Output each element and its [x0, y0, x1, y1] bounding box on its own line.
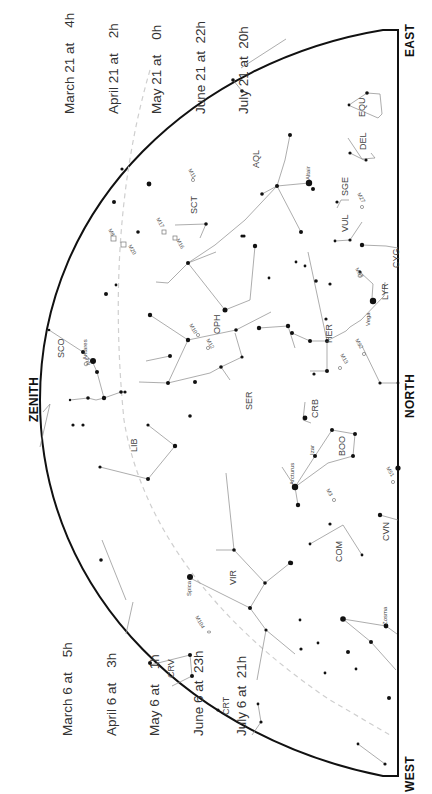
time-row: June 21 at 22h	[194, 13, 209, 114]
label-zosma: Zosma	[382, 606, 388, 625]
label-m57: M57	[354, 267, 365, 279]
label-m10: M10	[188, 323, 199, 335]
label-izar: Izar	[309, 445, 315, 455]
label-antares: Antares	[82, 339, 88, 360]
west-label: WEST	[403, 756, 417, 792]
label-del: DEL	[358, 132, 368, 150]
ecliptic-line	[118, 70, 390, 735]
label-lib: LIB	[129, 438, 139, 452]
label-m16: M16	[175, 238, 186, 250]
label-arcturus: Arcturus	[289, 463, 295, 485]
label-crb: CRB	[310, 399, 320, 418]
label-equ: EQU	[357, 97, 367, 117]
label-m27: M27	[356, 192, 367, 204]
label-m3: M3	[325, 488, 334, 498]
time-row: March 6 at 5h	[61, 642, 76, 736]
time-row: July 6 at 21h	[235, 642, 250, 736]
time-row: May 21 at 0h	[150, 13, 165, 114]
label-sge: SGE	[340, 177, 350, 196]
label-cvn: CVN	[381, 522, 391, 541]
label-boo: BOO	[337, 436, 347, 456]
label-vul: VUL	[340, 214, 350, 232]
label-m4: M4	[85, 357, 91, 365]
label-spica: Spica	[186, 580, 192, 596]
label-sco: SCO	[56, 338, 66, 358]
constellation-labels: SCO LIB SCT OPH SER AQL SGE VUL DEL EQU …	[56, 97, 401, 715]
label-her: HER	[324, 323, 334, 343]
label-cyg: CYG	[391, 248, 401, 268]
time-row: April 21 at 2h	[107, 13, 122, 114]
time-block-lower: March 6 at 5h April 6 at 3h May 6 at 1h …	[32, 642, 264, 736]
label-m17: M17	[155, 217, 166, 229]
zenith-label: ZENITH	[27, 377, 41, 422]
time-row: May 6 at 1h	[148, 642, 163, 736]
label-lyr: LYR	[380, 283, 390, 300]
label-m104: M104	[194, 615, 206, 630]
label-oph: OPH	[212, 314, 222, 334]
label-sct: SCT	[189, 195, 199, 214]
label-m20: M20	[127, 244, 138, 256]
north-label: NORTH	[403, 374, 417, 418]
label-ser: SER	[244, 391, 254, 410]
label-m11: M11	[187, 168, 197, 180]
label-altair: Altair	[305, 166, 311, 180]
east-label: EAST	[403, 24, 417, 57]
label-aql: AQL	[251, 150, 261, 168]
time-block-upper: March 21 at 4h April 21 at 2h May 21 at …	[34, 13, 266, 114]
label-vega: Vega	[365, 312, 371, 326]
time-row: June 6 at 23h	[192, 642, 207, 736]
time-row: March 21 at 4h	[63, 13, 78, 114]
label-com: COM	[334, 541, 344, 562]
deep-sky-labels: M4 M8 M20 M17 M16 M11 M10 M12 M13 M92 M5…	[85, 168, 396, 630]
label-m13: M13	[339, 353, 350, 365]
label-m51: M51	[385, 466, 396, 478]
label-vir: VIR	[228, 569, 238, 585]
time-row: April 6 at 3h	[105, 642, 120, 736]
time-row: July 21 at 20h	[237, 13, 252, 114]
